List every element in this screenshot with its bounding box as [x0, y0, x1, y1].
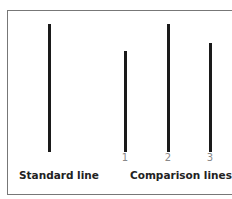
comparison-line-2: [167, 24, 170, 152]
comparison-lines-label: Comparison lines: [130, 169, 232, 181]
standard-line-label: Standard line: [19, 169, 99, 181]
comparison-number-3: 3: [207, 152, 213, 163]
comparison-number-1: 1: [122, 152, 128, 163]
diagram-frame: [7, 10, 232, 195]
comparison-line-3: [209, 43, 212, 152]
comparison-line-1: [124, 51, 127, 152]
standard-line: [48, 24, 51, 152]
comparison-number-2: 2: [165, 152, 171, 163]
